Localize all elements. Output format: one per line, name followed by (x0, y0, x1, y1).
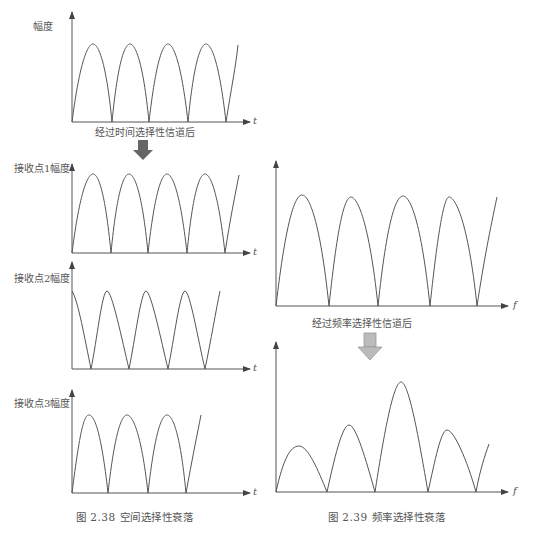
diagram-canvas (0, 0, 539, 537)
xlabel-t-4: t (253, 486, 257, 497)
plot-receiver-1 (72, 164, 250, 253)
caption-fig-2-39: 图 2.39 频率选择性衰落 (328, 509, 445, 524)
xlabel-t-2: t (253, 246, 257, 257)
xlabel-f-2: f (513, 485, 517, 496)
plot-frequency-before (276, 161, 508, 306)
light-down-arrow-icon (358, 333, 382, 360)
plot-frequency-after (276, 342, 508, 492)
frequency-channel-label: 经过频率选择性信道后 (312, 315, 412, 330)
plot-receiver-3 (72, 390, 250, 493)
xlabel-t-1: t (253, 115, 257, 126)
plot-receiver-2 (72, 262, 250, 369)
plot-original-amplitude (72, 12, 250, 122)
caption-fig-2-38: 图 2.38 空间选择性衰落 (76, 509, 193, 524)
xlabel-f-1: f (513, 299, 517, 310)
dark-down-arrow-icon (133, 140, 153, 160)
time-channel-label: 经过时间选择性信道后 (95, 124, 195, 139)
ylabel-receiver-1: 接收点1幅度 (14, 160, 70, 175)
ylabel-receiver-3: 接收点3幅度 (14, 395, 70, 410)
ylabel-receiver-2: 接收点2幅度 (14, 270, 70, 285)
xlabel-t-3: t (253, 362, 257, 373)
ylabel-amplitude: 幅度 (33, 18, 53, 33)
